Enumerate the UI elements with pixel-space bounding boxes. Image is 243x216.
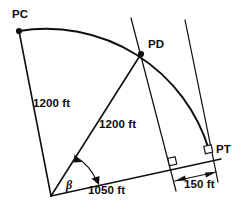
- radius-line-pc: [19, 31, 51, 196]
- baseline-dimension-label: 1050 ft: [88, 185, 125, 197]
- right-angle-marker-pt: [204, 145, 213, 154]
- pt-tangent-line: [185, 20, 218, 182]
- pt-label: PT: [216, 144, 231, 156]
- offset-arrow-right: [205, 172, 216, 178]
- curve-arc-pc-to-pt: [19, 29, 209, 150]
- right-angle-marker-baseline: [168, 157, 177, 166]
- pd-point-marker: [138, 51, 144, 57]
- radius-pd-dimension-label: 1200 ft: [99, 119, 136, 131]
- offset-dimension-label: 150 ft: [184, 179, 215, 191]
- pd-label: PD: [148, 39, 164, 51]
- beta-angle-label: β: [66, 179, 72, 191]
- beta-arrow-upper: [74, 155, 83, 163]
- curve-geometry-diagram: PC PD PT 1200 ft 1200 ft 1050 ft 150 ft …: [0, 0, 243, 216]
- radius-pc-dimension-label: 1200 ft: [33, 98, 70, 110]
- pc-point-marker: [16, 28, 22, 34]
- pc-label: PC: [12, 9, 28, 21]
